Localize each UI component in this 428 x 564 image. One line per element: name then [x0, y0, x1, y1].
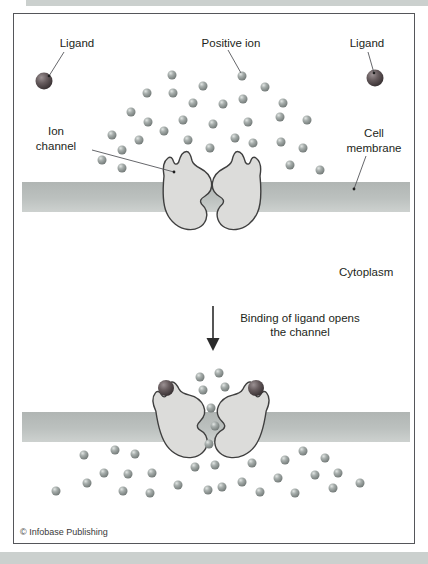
positive-ion-sphere — [127, 108, 136, 117]
positive-ion-sphere — [206, 144, 215, 153]
positive-ion-sphere — [238, 478, 247, 487]
positive-ion-sphere — [249, 139, 258, 148]
positive-ion-sphere — [189, 99, 198, 108]
ion-channel-closed-right — [212, 152, 260, 230]
positive-ion-sphere — [261, 83, 270, 92]
positive-ion-sphere — [199, 82, 208, 91]
positive-ion-sphere — [100, 469, 109, 478]
ion-channel-closed-left — [163, 152, 211, 230]
positive-ion-sphere — [215, 369, 224, 378]
positive-ion-sphere — [135, 136, 144, 145]
annotation-dot-cell-membrane — [353, 188, 356, 191]
positive-ion-sphere — [248, 459, 257, 468]
positive-ion-sphere — [119, 487, 128, 496]
positive-ion-sphere — [244, 118, 253, 127]
bottom-panel — [22, 369, 410, 498]
label-ion-channel: Ion channel — [26, 124, 86, 154]
positive-ion-sphere — [334, 469, 343, 478]
free-ligands — [36, 70, 384, 90]
positive-ion-sphere — [219, 100, 228, 109]
positive-ion-sphere — [196, 373, 205, 382]
label-ligand-left: Ligand — [48, 36, 106, 51]
positive-ion-sphere — [98, 156, 107, 165]
positive-ion-sphere — [276, 113, 285, 122]
positive-ion-sphere — [209, 120, 218, 129]
positive-ion-sphere — [108, 131, 117, 140]
positive-ion-sphere — [279, 99, 288, 108]
label-positive-ion: Positive ion — [196, 36, 266, 51]
bottom-ions — [52, 446, 365, 498]
positive-ion-sphere — [148, 469, 157, 478]
copyright-text: © Infobase Publishing — [20, 527, 108, 537]
positive-ion-sphere — [281, 456, 290, 465]
label-ion-channel-line2: channel — [26, 139, 86, 154]
label-cell-membrane-line2: membrane — [342, 141, 406, 156]
positive-ion-sphere — [83, 479, 92, 488]
positive-ion-sphere — [168, 71, 177, 80]
ligand-sphere — [248, 380, 264, 396]
positive-ion-sphere — [144, 118, 153, 127]
positive-ion-sphere — [221, 383, 230, 392]
positive-ion-sphere — [218, 483, 227, 492]
positive-ion-sphere — [118, 146, 127, 155]
positive-ion-sphere — [231, 134, 240, 143]
annotation-dot-ligand-right — [373, 72, 376, 75]
positive-ion-sphere — [118, 164, 127, 173]
label-binding-caption: Binding of ligand opens the channel — [229, 311, 371, 339]
positive-ion-sphere — [211, 422, 220, 431]
positive-ion-sphere — [316, 166, 325, 175]
transition — [207, 306, 220, 351]
positive-ion-sphere — [207, 404, 216, 413]
transition-arrowhead — [207, 338, 220, 351]
positive-ion-sphere — [204, 486, 213, 495]
positive-ion-sphere — [329, 484, 338, 493]
positive-ion-sphere — [146, 489, 155, 498]
positive-ion-sphere — [256, 488, 265, 497]
positive-ion-sphere — [199, 386, 208, 395]
positive-ion-sphere — [311, 471, 320, 480]
positive-ion-sphere — [124, 470, 133, 479]
positive-ion-sphere — [191, 463, 200, 472]
positive-ion-sphere — [52, 487, 61, 496]
positive-ion-sphere — [205, 440, 214, 449]
positive-ion-sphere — [131, 450, 140, 459]
diagram-svg — [0, 0, 428, 564]
positive-ion-sphere — [179, 116, 188, 125]
label-cytoplasm: Cytoplasm — [339, 266, 393, 278]
positive-ion-sphere — [321, 454, 330, 463]
positive-ion-sphere — [303, 116, 312, 125]
positive-ion-sphere — [299, 144, 308, 153]
leader-line-ligand-left — [49, 52, 64, 76]
page: Ligand Positive ion Ligand Ion channel C… — [0, 0, 428, 564]
positive-ion-sphere — [184, 136, 193, 145]
positive-ion-sphere — [238, 72, 247, 81]
label-ligand-right: Ligand — [338, 36, 396, 51]
positive-ion-sphere — [286, 161, 295, 170]
positive-ion-sphere — [80, 451, 89, 460]
positive-ion-sphere — [239, 95, 248, 104]
positive-ion-sphere — [299, 447, 308, 456]
ligand-sphere — [367, 70, 384, 87]
positive-ion-sphere — [174, 481, 183, 490]
positive-ion-sphere — [274, 474, 283, 483]
positive-ion-sphere — [277, 138, 286, 147]
annotation-dot-ion-channel — [173, 171, 176, 174]
leader-line-positive-ion — [228, 50, 241, 73]
positive-ion-sphere — [143, 89, 152, 98]
positive-ion-sphere — [160, 127, 169, 136]
label-cell-membrane-line1: Cell — [342, 126, 406, 141]
positive-ion-sphere — [169, 89, 178, 98]
label-ion-channel-line1: Ion — [26, 124, 86, 139]
annotation-dot-ligand-left — [48, 75, 51, 78]
positive-ion-sphere — [356, 479, 365, 488]
positive-ion-sphere — [111, 446, 120, 455]
label-binding-line2: the channel — [229, 325, 371, 339]
leader-line-ligand-right — [368, 52, 374, 73]
label-cell-membrane: Cell membrane — [342, 126, 406, 156]
ligand-sphere — [158, 380, 174, 396]
positive-ion-sphere — [211, 461, 220, 470]
top-ions — [98, 71, 325, 175]
label-binding-line1: Binding of ligand opens — [229, 311, 371, 325]
positive-ion-sphere — [291, 489, 300, 498]
